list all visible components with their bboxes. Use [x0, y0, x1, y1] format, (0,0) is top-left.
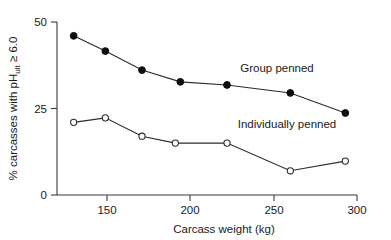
data-point-open: [172, 140, 178, 146]
series-group-penned-line: [74, 36, 346, 113]
data-point-open: [224, 140, 230, 146]
x-tick-label-300: 300: [347, 204, 366, 216]
data-point-open: [102, 115, 108, 121]
data-point-open: [287, 168, 293, 174]
data-point-filled: [70, 32, 77, 39]
y-axis: 50 25 0: [34, 16, 57, 201]
series-label-individually-penned: Individually penned: [238, 118, 336, 130]
x-axis: 150 200 250 300: [57, 195, 367, 216]
data-point-filled: [224, 82, 231, 89]
series-label-group-penned: Group penned: [240, 62, 314, 74]
series-group-penned: [70, 32, 348, 116]
data-point-open: [71, 119, 77, 125]
x-tick-label-150: 150: [97, 204, 116, 216]
y-axis-title-prefix: % carcasses with pH: [7, 74, 19, 181]
line-chart: 50 25 0 150 200 250 300 Carcass weight (…: [0, 0, 391, 240]
data-point-filled: [139, 67, 146, 74]
y-axis-title: % carcasses with pHult ≥ 6.0: [7, 37, 22, 181]
y-axis-title-suffix: ≥ 6.0: [7, 37, 19, 66]
y-tick-label-0: 0: [41, 189, 47, 201]
data-point-filled: [177, 78, 184, 85]
data-point-open: [139, 133, 145, 139]
data-point-filled: [342, 110, 349, 117]
series-group-penned-markers: [70, 32, 348, 116]
y-tick-label-50: 50: [34, 16, 47, 28]
data-point-open: [342, 158, 348, 164]
x-axis-title: Carcass weight (kg): [173, 223, 275, 235]
x-tick-label-250: 250: [264, 204, 283, 216]
data-point-filled: [287, 90, 294, 97]
x-tick-label-200: 200: [180, 204, 199, 216]
y-tick-label-25: 25: [34, 103, 47, 115]
svg-text:% carcasses with pHult ≥ 6.0: % carcasses with pHult ≥ 6.0: [7, 37, 22, 181]
chart-figure: 50 25 0 150 200 250 300 Carcass weight (…: [0, 0, 391, 240]
data-point-filled: [102, 48, 109, 55]
